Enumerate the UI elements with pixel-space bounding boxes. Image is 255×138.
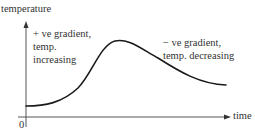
falling-annotation-line: − ve gradient, (163, 36, 234, 49)
falling-annotation-line: temp. decreasing (163, 49, 234, 62)
x-axis-label: time (233, 110, 252, 122)
rising-annotation-line: + ve gradient, (33, 27, 91, 40)
origin-label: 0 (19, 119, 24, 131)
rising-annotation-line: temp. (33, 40, 91, 53)
y-axis-label: temperature (1, 3, 51, 15)
x-axis-arrow-icon (224, 115, 231, 120)
y-axis-arrow-icon (24, 21, 29, 28)
rising-annotation: + ve gradient, temp. increasing (33, 27, 91, 66)
temperature-time-diagram: temperature time 0 + ve gradient, temp. … (0, 0, 255, 138)
falling-annotation: − ve gradient, temp. decreasing (163, 36, 234, 62)
rising-annotation-line: increasing (33, 53, 91, 66)
graph-canvas (0, 0, 255, 138)
